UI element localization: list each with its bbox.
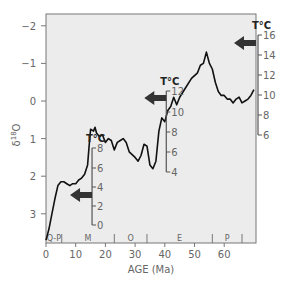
temperature-tick-label: 10 — [263, 90, 276, 101]
temperature-tick-label: 14 — [263, 50, 276, 61]
epoch-label: Q-P — [47, 234, 61, 243]
x-tick-label: 10 — [69, 249, 82, 260]
temperature-tick-label: 8 — [263, 110, 269, 121]
temperature-tick-label: 2 — [97, 201, 103, 212]
temperature-tick-label: 16 — [263, 30, 276, 41]
temperature-tick-label: 10 — [171, 107, 184, 118]
y-axis-title: δ18O — [10, 123, 22, 146]
y-axis: −2−10123 — [21, 21, 46, 220]
temperature-tick-label: 4 — [171, 167, 177, 178]
temperature-tick-label: 6 — [171, 147, 177, 158]
y-tick-label: 2 — [30, 171, 36, 182]
x-tick-label: 40 — [158, 249, 171, 260]
x-tick-label: 0 — [43, 249, 49, 260]
temperature-tick-label: 6 — [97, 163, 103, 174]
temperature-tick-label: 8 — [97, 143, 103, 154]
epoch-label: E — [177, 234, 182, 243]
y-tick-label: 1 — [30, 134, 36, 145]
epoch-label: P — [225, 234, 230, 243]
x-tick-label: 50 — [188, 249, 201, 260]
temperature-tick-label: 6 — [263, 130, 269, 141]
temperature-tick-label: 12 — [263, 70, 276, 81]
x-tick-label: 30 — [129, 249, 142, 260]
x-tick-label: 20 — [99, 249, 112, 260]
x-tick-label: 60 — [218, 249, 231, 260]
y-tick-label: 3 — [30, 209, 36, 220]
delta-o18-chart: −2−10123 0102030405060 Q-PMOEP T°C02468T… — [0, 0, 287, 288]
epoch-label: M — [85, 234, 92, 243]
temperature-tick-label: 8 — [171, 127, 177, 138]
plot-area — [46, 14, 256, 243]
temperature-tick-label: 0 — [97, 220, 103, 231]
y-tick-label: −2 — [21, 21, 36, 32]
x-axis: 0102030405060 — [43, 243, 231, 260]
epoch-label: O — [127, 234, 133, 243]
y-tick-label: 0 — [30, 96, 36, 107]
temperature-tick-label: 4 — [97, 182, 103, 193]
temperature-tick-label: 12 — [171, 86, 184, 97]
y-tick-label: −1 — [21, 58, 36, 69]
x-axis-title: AGE (Ma) — [128, 264, 175, 275]
